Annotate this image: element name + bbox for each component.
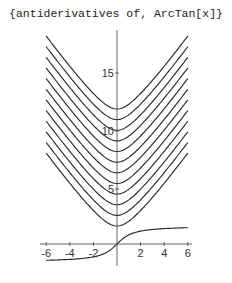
y-ticks: 51015 [102, 67, 119, 195]
x-tick-label: -2 [89, 247, 99, 259]
x-tick-label: 4 [161, 247, 167, 259]
x-tick-label: 2 [138, 247, 144, 259]
x-tick-label: -4 [65, 247, 75, 259]
y-tick-label: 10 [102, 125, 114, 137]
chart-title: {antiderivatives of, ArcTan[x]} [9, 7, 223, 20]
y-tick-label: 5 [108, 183, 114, 195]
x-tick-label: 6 [185, 247, 191, 259]
chart-plot: {antiderivatives of, ArcTan[x]} -6-4-224… [0, 0, 232, 283]
y-tick-label: 15 [102, 67, 114, 79]
x-tick-label: -6 [41, 247, 51, 259]
